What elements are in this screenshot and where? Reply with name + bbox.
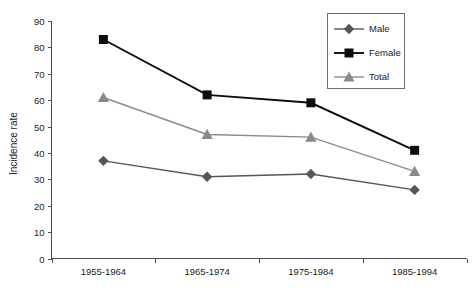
data-point	[306, 169, 316, 179]
data-point	[409, 185, 419, 195]
y-axis-title: Incidence rate	[8, 112, 19, 175]
series-total	[98, 92, 420, 176]
y-tick-label: 30	[34, 174, 45, 185]
y-tick-label: 90	[34, 16, 45, 27]
x-axis-category-label: 1965-1974	[184, 266, 229, 277]
data-point	[98, 92, 109, 102]
legend-item-label: Male	[369, 23, 390, 34]
y-tick-label: 40	[34, 148, 45, 159]
series-male	[98, 156, 420, 195]
series-line	[103, 98, 414, 172]
x-axis-category-label: 1955-1964	[81, 266, 126, 277]
y-tick-label: 80	[34, 42, 45, 53]
data-point	[98, 156, 108, 166]
y-tick-label: 0	[39, 254, 44, 265]
y-tick-label: 50	[34, 122, 45, 133]
legend-item-label: Female	[369, 47, 401, 58]
y-axis-ticks: 0102030405060708090	[34, 16, 52, 265]
data-point	[203, 90, 212, 99]
legend-swatch-marker	[345, 49, 354, 58]
line-chart: Incidence rate 0102030405060708090 1955-…	[0, 0, 474, 292]
data-point	[410, 146, 419, 155]
legend-item-label: Total	[369, 71, 389, 82]
x-axis-labels: 1955-19641965-19741975-19841985-1994	[81, 266, 438, 277]
data-point	[99, 35, 108, 44]
x-axis-ticks	[53, 259, 468, 263]
y-tick-label: 20	[34, 201, 45, 212]
series-line	[103, 161, 414, 190]
data-point	[306, 98, 315, 107]
chart-legend[interactable]: MaleFemaleTotal	[328, 14, 405, 89]
x-axis-category-label: 1975-1984	[288, 266, 333, 277]
y-tick-label: 60	[34, 95, 45, 106]
data-point	[202, 171, 212, 181]
x-axis-category-label: 1985-1994	[392, 266, 437, 277]
data-point	[409, 166, 420, 176]
y-tick-label: 10	[34, 227, 45, 238]
y-tick-label: 70	[34, 69, 45, 80]
chart-canvas: Incidence rate 0102030405060708090 1955-…	[0, 0, 474, 292]
